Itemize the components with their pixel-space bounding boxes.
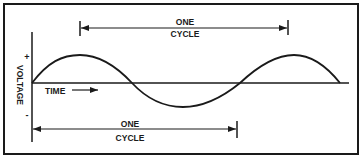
plus-sign: + (24, 52, 29, 62)
voltage-label: VOLTAGE (15, 65, 25, 105)
bottom-cycle-label-cycle: CYCLE (116, 133, 145, 143)
bottom-cycle-label-one: ONE (121, 119, 140, 129)
minus-sign: - (26, 110, 29, 120)
top-cycle-label-cycle: CYCLE (171, 29, 200, 39)
sine-wave (32, 55, 340, 107)
time-label: TIME (45, 86, 66, 96)
top-cycle-label-one: ONE (176, 17, 195, 27)
sine-wave-diagram: ONE CYCLE ONE CYCLE + - VOLTAGE TIME (0, 0, 364, 159)
